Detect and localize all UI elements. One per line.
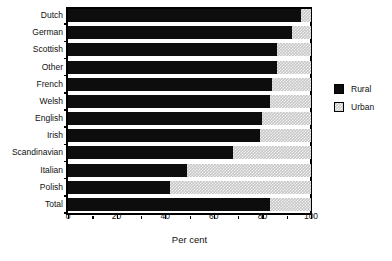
x-axis-tick-label: 60 [209, 212, 218, 221]
bar-segment-rural [68, 164, 187, 177]
bar-segment-rural [68, 181, 170, 194]
category-label-french: French [0, 80, 63, 89]
x-axis-minor-tick [92, 216, 93, 219]
y-axis-tick [64, 58, 68, 59]
bar-segment-rural [68, 61, 277, 74]
x-axis-tick-label: 80 [258, 212, 267, 221]
bar-row [68, 95, 311, 108]
x-axis-minor-tick [238, 216, 239, 219]
y-axis-tick [64, 144, 68, 145]
x-axis-tick-label: 40 [160, 212, 169, 221]
bar-row [68, 112, 311, 125]
bar-segment-urban [277, 43, 311, 56]
y-axis-tick [64, 178, 68, 179]
legend-label: Rural [351, 84, 371, 94]
bar-segment-rural [68, 78, 272, 91]
y-axis-tick [64, 195, 68, 196]
category-label-irish: Irish [0, 131, 63, 140]
category-label-dutch: Dutch [0, 11, 63, 20]
x-axis-minor-tick [287, 216, 288, 219]
bar-row [68, 181, 311, 194]
x-axis-tick-label: 20 [112, 212, 121, 221]
legend-item-rural: Rural [334, 82, 374, 95]
category-label-total: Total [0, 200, 63, 209]
y-axis-tick [64, 92, 68, 93]
category-label-welsh: Welsh [0, 97, 63, 106]
bar-segment-rural [68, 43, 277, 56]
bar-segment-rural [68, 146, 233, 159]
bar-segment-urban [272, 78, 311, 91]
bar-row [68, 129, 311, 142]
y-axis-tick [64, 41, 68, 42]
y-axis-tick [64, 109, 68, 110]
x-axis-minor-tick [141, 216, 142, 219]
x-axis-line [66, 213, 311, 215]
stacked-bar-chart: DutchGermanScottishOtherFrenchWelshEngli… [0, 0, 392, 261]
bar-segment-rural [68, 198, 270, 211]
bar-segment-urban [233, 146, 311, 159]
bar-segment-urban [170, 181, 311, 194]
bar-row [68, 146, 311, 159]
bar-row [68, 78, 311, 91]
bar-segment-rural [68, 95, 270, 108]
legend-item-urban: Urban [334, 100, 374, 113]
bar-segment-urban [187, 164, 311, 177]
bar-row [68, 9, 311, 22]
x-axis-title: Per cent [68, 234, 311, 245]
x-axis-tick-label: 100 [304, 212, 318, 221]
bar-segment-rural [68, 129, 260, 142]
category-label-german: German [0, 28, 63, 37]
category-label-english: English [0, 114, 63, 123]
category-label-scottish: Scottish [0, 45, 63, 54]
x-axis-minor-tick [190, 216, 191, 219]
bar-segment-rural [68, 26, 292, 39]
y-axis-tick [64, 23, 68, 24]
bar-row [68, 43, 311, 56]
category-label-italian: Italian [0, 166, 63, 175]
category-axis-labels: DutchGermanScottishOtherFrenchWelshEngli… [0, 7, 63, 213]
legend-label: Urban [351, 102, 374, 112]
urban-swatch [334, 102, 344, 112]
bar-segment-urban [301, 9, 311, 22]
x-axis-tick-label: 0 [66, 212, 71, 221]
bar-row [68, 61, 311, 74]
rural-swatch [334, 84, 344, 94]
bar-row [68, 164, 311, 177]
bar-segment-urban [262, 112, 311, 125]
bar-segment-urban [270, 95, 311, 108]
category-label-polish: Polish [0, 183, 63, 192]
bar-segment-urban [292, 26, 311, 39]
bar-segment-rural [68, 112, 262, 125]
y-axis-tick [64, 161, 68, 162]
y-axis-tick [64, 75, 68, 76]
bar-row [68, 198, 311, 211]
category-label-scandinavian: Scandinavian [0, 148, 63, 157]
bar-segment-urban [260, 129, 311, 142]
category-label-other: Other [0, 63, 63, 72]
bar-row [68, 26, 311, 39]
bar-segment-urban [277, 61, 311, 74]
chart-legend: RuralUrban [334, 82, 374, 118]
bar-segment-rural [68, 9, 301, 22]
plot-area [68, 7, 311, 213]
y-axis-tick [64, 126, 68, 127]
bar-segment-urban [270, 198, 311, 211]
